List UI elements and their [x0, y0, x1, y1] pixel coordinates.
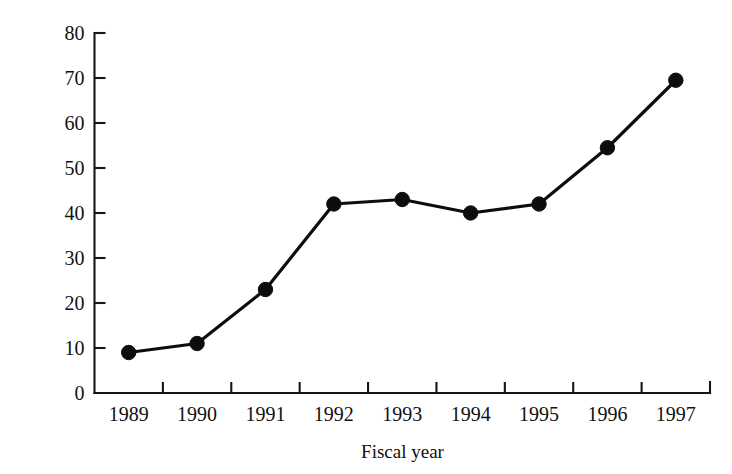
plot-area [0, 0, 732, 474]
data-point [258, 282, 272, 296]
data-point [463, 206, 477, 220]
data-point [669, 73, 683, 87]
data-point [121, 345, 135, 359]
data-point [395, 192, 409, 206]
data-point [327, 197, 341, 211]
series-line [129, 80, 676, 352]
line-chart: Thousands Fiscal year 01020304050607080 … [0, 0, 732, 474]
series-markers [121, 73, 683, 360]
data-point [532, 197, 546, 211]
tick-marks [95, 33, 642, 393]
data-point [600, 141, 614, 155]
axes [95, 33, 711, 393]
data-point [190, 336, 204, 350]
